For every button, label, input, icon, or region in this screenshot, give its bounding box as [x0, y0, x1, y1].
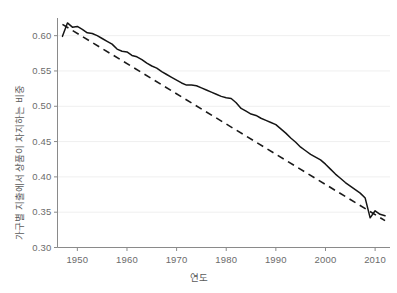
- x-tick-label: 1970: [157, 254, 197, 265]
- y-tick-label: 0.55: [32, 65, 51, 76]
- x-tick-label: 1950: [57, 254, 97, 265]
- y-tick-label: 0.40: [32, 171, 51, 182]
- y-tick-label: 0.45: [32, 136, 51, 147]
- x-tick-label: 2010: [355, 254, 395, 265]
- x-tick-label: 1990: [256, 254, 296, 265]
- x-tick-label: 1980: [206, 254, 246, 265]
- gridlines-group: [58, 36, 391, 248]
- tick-marks-group: [54, 36, 375, 251]
- x-tick-label: 2000: [305, 254, 345, 265]
- chart-figure: 0.300.350.400.450.500.550.60 19501960197…: [0, 0, 397, 293]
- x-axis-title: 연도: [0, 270, 397, 284]
- y-tick-label: 0.30: [32, 242, 51, 253]
- y-tick-label: 0.35: [32, 206, 51, 217]
- y-tick-label: 0.60: [32, 30, 51, 41]
- y-tick-label: 0.50: [32, 100, 51, 111]
- data-line-solid: [62, 23, 385, 218]
- x-tick-label: 1960: [107, 254, 147, 265]
- trend-line-dashed: [62, 24, 385, 220]
- chart-plot-area: [0, 0, 397, 293]
- y-axis-title: 가구별 지출에서 상품이 차지하는 비중: [12, 85, 26, 240]
